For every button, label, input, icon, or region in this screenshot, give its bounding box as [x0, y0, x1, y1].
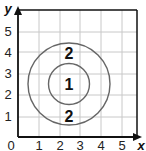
- x-tick-3: 3: [76, 138, 83, 151]
- x-axis-label: x: [136, 138, 145, 151]
- origin-label: 0: [7, 138, 14, 151]
- region-label-outer-top: 2: [65, 45, 74, 62]
- y-tick-3: 3: [4, 66, 11, 81]
- grid: [18, 10, 137, 137]
- x-tick-1: 1: [35, 138, 42, 151]
- y-tick-5: 5: [4, 24, 11, 39]
- coordinate-diagram: 1 2 2 1 2 3 4 5 0 1 2 3 4 5 y x: [0, 0, 146, 151]
- x-tick-4: 4: [97, 138, 104, 151]
- y-tick-4: 4: [4, 45, 11, 60]
- y-tick-2: 2: [4, 87, 11, 102]
- x-tick-5: 5: [118, 138, 125, 151]
- region-label-outer-bottom: 2: [65, 108, 74, 125]
- x-tick-2: 2: [56, 138, 63, 151]
- y-tick-1: 1: [4, 109, 11, 124]
- region-label-inner: 1: [65, 76, 74, 93]
- y-axis-label: y: [3, 1, 12, 16]
